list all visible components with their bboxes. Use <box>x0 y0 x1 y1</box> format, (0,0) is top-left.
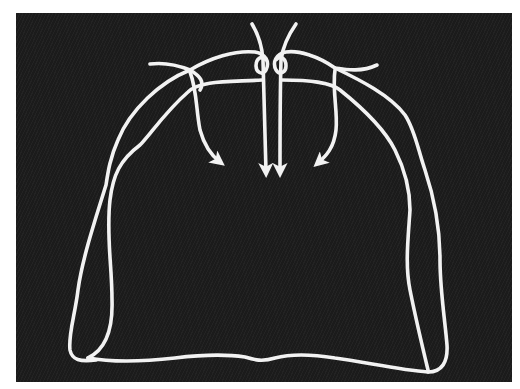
arch-top-right <box>274 52 377 73</box>
inner-contour-right <box>282 80 428 370</box>
outer-contour-right <box>335 68 447 372</box>
bottom-edge <box>88 355 428 372</box>
arch-top-left <box>150 52 268 73</box>
inner-contour-left <box>88 80 262 358</box>
arch-diagram <box>0 0 520 389</box>
outer-contour-left <box>70 70 190 361</box>
arrow-center-left <box>252 24 266 172</box>
arrow-center-right <box>280 24 296 172</box>
